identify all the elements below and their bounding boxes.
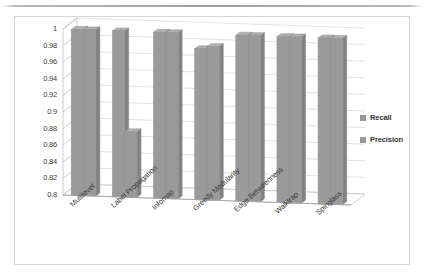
y-axis-tick-label: 0.94 [23, 75, 57, 83]
y-axis-tick-label: 0.96 [23, 58, 57, 66]
y-axis-tick-label: 1 [23, 25, 57, 33]
legend-swatch-recall [360, 115, 366, 121]
legend-item-precision: Precision [360, 135, 424, 144]
y-axis-tick-label: 0.86 [23, 141, 57, 149]
chart-legend: Recall Precision [360, 113, 424, 157]
y-axis-tick-label: 0.82 [23, 174, 57, 182]
y-axis-tick-label: 0.8 [23, 191, 57, 199]
y-axis-tick-label: 0.92 [23, 91, 57, 99]
top-divider-rule [2, 5, 422, 7]
plot-area: 10.980.960.940.920.90.880.860.840.820.8 … [15, 17, 411, 266]
legend-label-precision: Precision [370, 135, 403, 144]
y-axis-tick-label: 0.88 [23, 125, 57, 133]
legend-item-recall: Recall [360, 113, 424, 122]
chart-frame: 10.980.960.940.920.90.880.860.840.820.8 … [14, 16, 410, 265]
y-axis-tick-label: 0.98 [23, 42, 57, 50]
y-axis-tick-label: 0.9 [23, 108, 57, 116]
legend-swatch-precision [360, 137, 366, 143]
y-axis-tick-label: 0.84 [23, 158, 57, 166]
bar-chart-svg [15, 17, 411, 266]
legend-label-recall: Recall [370, 113, 392, 122]
